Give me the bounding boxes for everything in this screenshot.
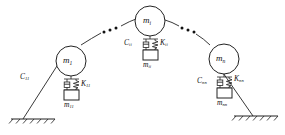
- label-primary-mass-left: m1: [63, 56, 72, 65]
- label-primary-mass-center: mi: [143, 16, 151, 25]
- damper-right: [217, 77, 223, 88]
- cable-span-right-a: [165, 20, 179, 26]
- label-secondary-mass-right: mnn: [217, 99, 227, 107]
- label-damper-center: Cii: [124, 39, 132, 47]
- label-damper-left: C11: [20, 73, 30, 81]
- label-damper-right: Cnn: [197, 77, 207, 85]
- cable-span-left-b: [121, 19, 136, 26]
- label-spring-right: Knn: [234, 75, 244, 83]
- label-secondary-mass-left: m11: [64, 101, 74, 109]
- label-secondary-mass-center: mii: [143, 61, 151, 69]
- damper-left: [64, 79, 70, 90]
- mechanical-schematic-figure: m1 C11 K11 m11 mi Cii Kii mii mn Cnn Knn…: [0, 0, 285, 135]
- cable-span-right-b: [196, 34, 210, 45]
- ground-support-left: [9, 119, 55, 124]
- mass-assembly-center: [135, 6, 165, 60]
- ellipsis-left: [103, 27, 118, 34]
- secondary-mass-box-left: [64, 90, 79, 100]
- damper-center: [143, 39, 149, 50]
- label-spring-center: Kii: [160, 39, 168, 47]
- label-spring-left: K11: [81, 80, 91, 88]
- spring-left: [73, 79, 79, 90]
- secondary-mass-box-center: [143, 50, 158, 60]
- secondary-mass-box-right: [217, 88, 232, 98]
- spring-center: [152, 39, 158, 50]
- ground-support-right: [232, 116, 278, 121]
- label-primary-mass-right: mn: [216, 54, 225, 63]
- mass-assembly-left: [56, 46, 86, 100]
- ellipsis-right: [181, 27, 196, 34]
- cable-span-left-a: [81, 33, 101, 45]
